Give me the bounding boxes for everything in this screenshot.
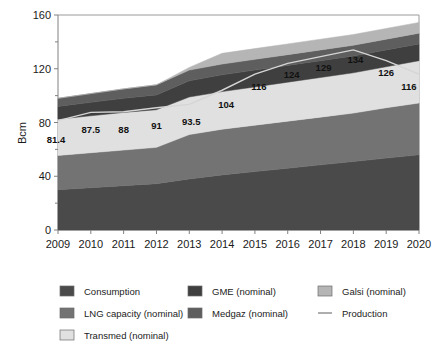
legend-item-label: Galsi (nominal) (342, 286, 406, 297)
production-value-label: 134 (347, 54, 364, 65)
production-value-label: 126 (378, 67, 394, 78)
production-value-label: 93.5 (182, 116, 201, 127)
x-tick-label: 2013 (177, 238, 201, 250)
x-tick-label: 2020 (407, 238, 431, 250)
x-tick-label: 2015 (243, 238, 267, 250)
y-tick-label: 0 (45, 224, 51, 236)
production-value-label: 116 (251, 81, 266, 92)
production-value-label: 81.4 (47, 134, 66, 145)
x-tick-label: 2011 (112, 238, 136, 250)
x-tick-label: 2010 (79, 238, 103, 250)
legend-swatch (60, 330, 74, 340)
x-tick-label: 2016 (275, 238, 299, 250)
legend-swatch (188, 308, 202, 318)
legend-swatch (188, 286, 202, 296)
production-value-label: 87.5 (82, 124, 101, 135)
production-value-label: 124 (284, 69, 301, 80)
legend-swatch (60, 286, 74, 296)
x-tick-label: 2017 (308, 238, 332, 250)
x-tick-label: 2019 (374, 238, 398, 250)
legend-item-label: GME (nominal) (212, 286, 276, 297)
production-value-label: 116 (401, 81, 416, 92)
y-tick-label: 80 (39, 117, 51, 129)
production-value-label: 88 (118, 124, 129, 135)
legend-item-label: LNG capacity (nominal) (84, 308, 183, 319)
legend-item: Galsi (nominal) (318, 286, 406, 297)
x-tick-label: 2012 (144, 238, 168, 250)
production-value-label: 104 (218, 99, 235, 110)
x-tick-label: 2014 (210, 238, 234, 250)
y-tick-label: 160 (33, 9, 51, 21)
legend-item: GME (nominal) (188, 286, 276, 297)
legend-item: Consumption (60, 286, 140, 297)
production-value-label: 91 (151, 120, 162, 131)
stacked-area-chart: 04080120160 2009201020112012201320142015… (0, 0, 440, 356)
legend-item-label: Consumption (84, 286, 140, 297)
legend-item-label: Transmed (nominal) (84, 330, 169, 341)
chart-container: 04080120160 2009201020112012201320142015… (0, 0, 440, 356)
x-tick-label: 2018 (341, 238, 365, 250)
x-tick-label: 2009 (46, 238, 70, 250)
legend-swatch (318, 286, 332, 296)
y-tick-label: 40 (39, 170, 51, 182)
legend-swatch (60, 308, 74, 318)
y-axis-title: Bcm (16, 122, 28, 144)
production-value-label: 129 (316, 62, 332, 73)
y-tick-label: 120 (33, 63, 51, 75)
legend-item-label: Production (342, 308, 387, 319)
legend-item-label: Medgaz (nominal) (212, 308, 288, 319)
